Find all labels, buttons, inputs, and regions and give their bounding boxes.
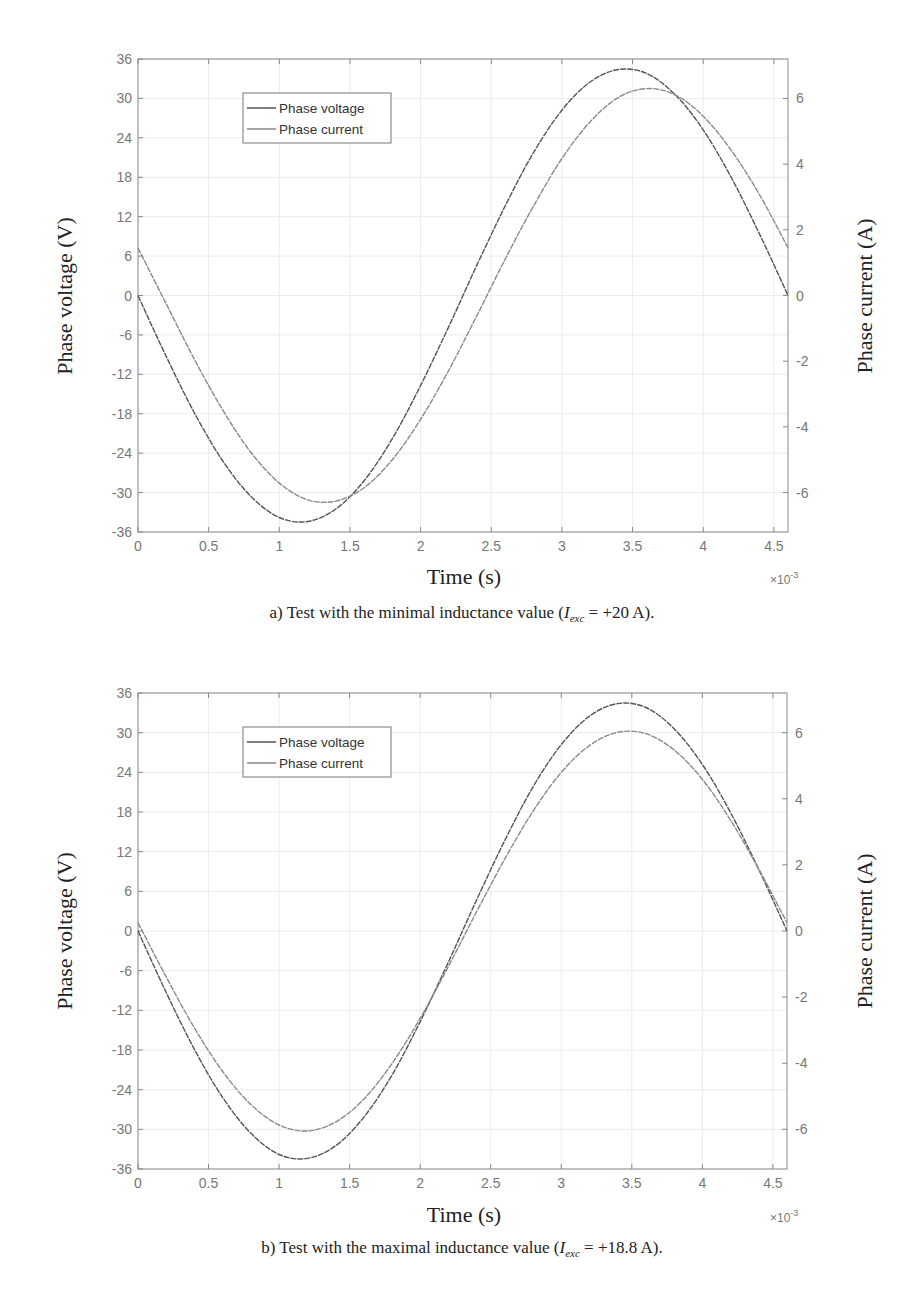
svg-text:1: 1: [275, 1175, 283, 1191]
legend-entry: Phase voltage: [279, 735, 365, 750]
x-exponent: ×10-3: [770, 1208, 798, 1225]
caption-text: b) Test with the maximal inductance valu…: [261, 1238, 559, 1257]
svg-text:0: 0: [134, 1175, 142, 1191]
chart-b: 00.511.522.533.544.5363024181260-6-12-18…: [0, 0, 924, 1296]
y-axis-label-left: Phase voltage (V): [52, 852, 77, 1010]
x-axis-label: Time (s): [427, 1202, 501, 1227]
svg-text:2.5: 2.5: [481, 1175, 501, 1191]
svg-text:12: 12: [116, 844, 132, 860]
caption-suffix: = +18.8 A).: [580, 1238, 663, 1257]
svg-text:-6: -6: [120, 963, 133, 979]
svg-text:1.5: 1.5: [340, 1175, 360, 1191]
svg-text:24: 24: [116, 764, 132, 780]
svg-text:0: 0: [795, 923, 803, 939]
legend-entry: Phase current: [279, 756, 363, 771]
svg-text:3: 3: [557, 1175, 565, 1191]
svg-text:4.5: 4.5: [763, 1175, 783, 1191]
caption-b: b) Test with the maximal inductance valu…: [0, 1238, 924, 1259]
svg-text:-36: -36: [112, 1161, 132, 1177]
svg-text:-4: -4: [795, 1055, 808, 1071]
svg-text:30: 30: [116, 725, 132, 741]
svg-text:-12: -12: [112, 1002, 132, 1018]
svg-text:2: 2: [795, 857, 803, 873]
svg-text:6: 6: [795, 725, 803, 741]
svg-text:6: 6: [124, 883, 132, 899]
svg-text:2: 2: [416, 1175, 424, 1191]
svg-text:3.5: 3.5: [622, 1175, 642, 1191]
svg-text:-6: -6: [795, 1121, 808, 1137]
svg-text:18: 18: [116, 804, 132, 820]
caption-sub: exc: [565, 1247, 580, 1259]
y-axis-label-right: Phase current (A): [852, 853, 877, 1008]
svg-text:0.5: 0.5: [199, 1175, 219, 1191]
svg-text:-24: -24: [112, 1082, 132, 1098]
svg-text:36: 36: [116, 685, 132, 701]
svg-text:4: 4: [698, 1175, 706, 1191]
svg-text:0: 0: [124, 923, 132, 939]
legend: Phase voltagePhase current: [243, 727, 391, 777]
svg-text:-2: -2: [795, 989, 808, 1005]
svg-text:-30: -30: [112, 1121, 132, 1137]
svg-text:4: 4: [795, 791, 803, 807]
svg-text:-18: -18: [112, 1042, 132, 1058]
